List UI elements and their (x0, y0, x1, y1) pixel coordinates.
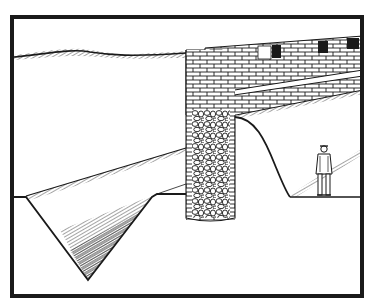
rubble-pier (186, 50, 235, 221)
castle-wall-illustration (0, 0, 377, 308)
crenel (258, 46, 271, 59)
